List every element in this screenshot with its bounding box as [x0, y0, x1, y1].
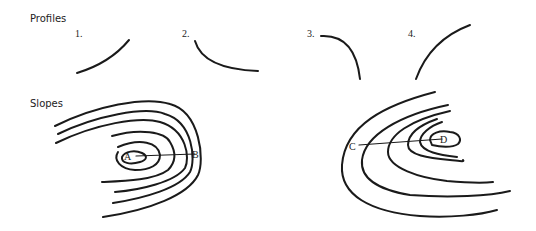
left-contour-map: A B: [55, 101, 201, 217]
profile-3-curve: [321, 36, 360, 79]
diagram-canvas: A B C D: [0, 0, 536, 231]
profile-1-curve: [77, 40, 129, 73]
point-b: B: [192, 149, 199, 160]
right-contour-map: C D: [342, 92, 510, 217]
point-a: A: [124, 151, 132, 162]
point-c: C: [349, 141, 356, 152]
profile-2-curve: [195, 41, 258, 71]
point-d: D: [440, 134, 447, 145]
profile-4-curve: [416, 25, 470, 79]
